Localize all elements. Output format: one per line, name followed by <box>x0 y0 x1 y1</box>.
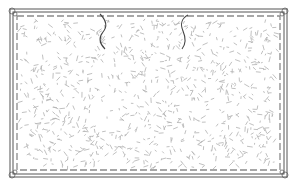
stitch-line <box>17 16 280 170</box>
break-lines <box>100 14 188 49</box>
right-break-line <box>182 15 188 49</box>
mat-drawing <box>0 0 296 186</box>
surface-texture <box>18 19 279 170</box>
